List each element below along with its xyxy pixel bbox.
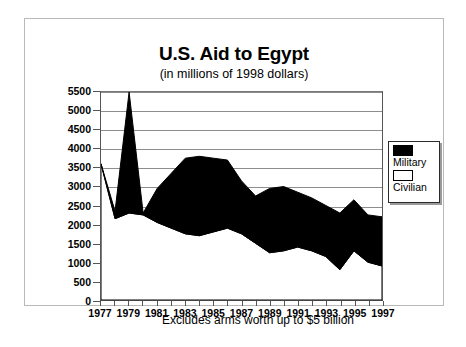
x-axis-tick: [341, 301, 342, 306]
chart-footnote: Excludes arms worth up to $5 billion: [25, 313, 466, 327]
x-axis-tick: [199, 301, 200, 306]
y-axis-tick-label: 5500: [68, 85, 91, 97]
y-axis-tick-label: 1000: [68, 257, 91, 269]
y-axis-tick-label: 500: [73, 276, 91, 288]
legend-label-military: Military: [393, 156, 435, 168]
y-axis-tick-label: 3500: [68, 161, 91, 173]
y-axis-tick: [93, 225, 100, 226]
y-axis-tick: [93, 110, 100, 111]
y-axis-labels: 0500100015002000250030003500400045005000…: [55, 91, 97, 301]
x-axis-tick: [326, 301, 327, 306]
y-axis-tick-label: 5000: [68, 104, 91, 116]
y-axis-tick-label: 4000: [68, 142, 91, 154]
x-axis-tick: [369, 301, 370, 306]
x-axis-tick: [312, 301, 313, 306]
chart-legend: Military Civilian: [388, 141, 440, 203]
x-axis-tick: [256, 301, 257, 306]
chart-subtitle: (in millions of 1998 dollars): [25, 67, 443, 81]
x-axis-tick: [213, 301, 214, 306]
x-axis-tick: [383, 301, 384, 306]
x-axis-tick: [114, 301, 115, 306]
x-axis-tick: [171, 301, 172, 306]
y-axis-tick: [93, 263, 100, 264]
y-axis-tick-label: 2500: [68, 200, 91, 212]
y-axis-tick: [93, 167, 100, 168]
x-axis-tick: [157, 301, 158, 306]
y-axis-tick-label: 3000: [68, 180, 91, 192]
stacked-area-series: [101, 92, 382, 300]
chart-title: U.S. Aid to Egypt: [25, 43, 443, 65]
y-axis-tick: [93, 129, 100, 130]
y-axis-tick-label: 0: [85, 295, 91, 307]
y-axis-tick: [93, 244, 100, 245]
y-axis-tick: [93, 282, 100, 283]
legend-item-military: Military: [393, 145, 435, 168]
y-axis-tick: [93, 301, 100, 302]
legend-item-civilian: Civilian: [393, 170, 435, 193]
x-axis-tick: [270, 301, 271, 306]
x-axis-tick: [355, 301, 356, 306]
y-axis-tick: [93, 206, 100, 207]
y-axis-tick: [93, 91, 100, 92]
legend-swatch-civilian-icon: [393, 170, 413, 181]
y-axis-tick-label: 4500: [68, 123, 91, 135]
y-axis-tick-label: 2000: [68, 219, 91, 231]
x-axis-tick: [227, 301, 228, 306]
x-axis-tick: [185, 301, 186, 306]
y-axis-tick: [93, 186, 100, 187]
x-axis-tick: [142, 301, 143, 306]
x-axis-tick: [128, 301, 129, 306]
legend-label-civilian: Civilian: [393, 181, 435, 193]
x-axis-tick: [298, 301, 299, 306]
chart-page: U.S. Aid to Egypt (in millions of 1998 d…: [0, 0, 466, 347]
plot-wrapper: 0500100015002000250030003500400045005000…: [55, 91, 385, 303]
y-axis-tick: [93, 148, 100, 149]
legend-swatch-military-icon: [393, 145, 413, 156]
x-axis-tick: [284, 301, 285, 306]
plot-area: [100, 91, 383, 301]
x-axis-tick: [242, 301, 243, 306]
y-axis-tick-label: 1500: [68, 238, 91, 250]
chart-frame: U.S. Aid to Egypt (in millions of 1998 d…: [24, 18, 444, 306]
x-axis-tick: [100, 301, 101, 306]
